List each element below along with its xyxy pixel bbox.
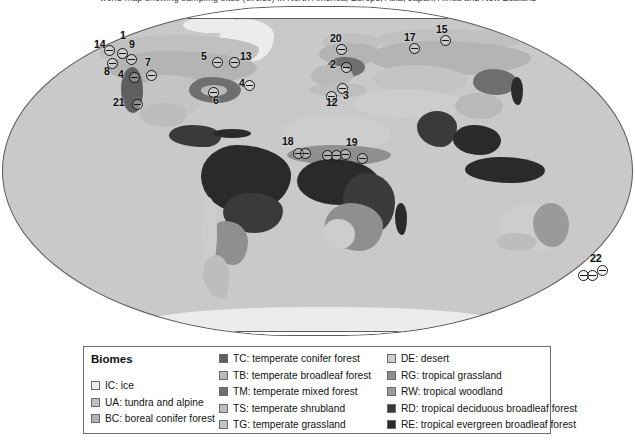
legend-swatch-ua [91,398,100,407]
map-frame-top [128,18,508,19]
site-label-7: 7 [145,57,151,68]
site-marker-19[interactable] [357,153,368,164]
site-label-6: 6 [213,95,219,106]
landmass-japan [511,77,523,105]
legend-swatch-tg [219,420,228,429]
legend-item-ua: UA: tundra and alpine [91,395,219,411]
legend-label-tg: TG: temperate grassland [233,419,346,430]
site-marker-21[interactable] [132,99,143,110]
legend-swatch-de [387,354,396,363]
legend-column-two: TC: temperate conifer forestTB: temperat… [219,347,387,433]
legend-item-tg: TG: temperate grassland [219,417,387,433]
site-marker-15[interactable] [440,35,451,46]
legend-item-tb: TB: temperate broadleaf forest [219,368,387,384]
site-marker-13[interactable] [229,57,240,68]
site-label-4b: 4 [239,78,245,89]
legend-label-rd: RD: tropical deciduous broadleaf forest [401,403,577,414]
site-marker-9[interactable] [126,54,137,65]
legend-item-ic: IC: ice [91,378,219,394]
site-label-17: 17 [404,32,416,43]
map-plate [2,6,633,336]
site-marker-19c[interactable] [340,149,351,160]
legend-item-tc: TC: temperate conifer forest [219,351,387,367]
landmass-madagascar [395,203,407,235]
landmass-southwest-shrubland [139,103,187,127]
landmass-australia-shrubland [497,233,537,251]
landmass-patagonia [203,255,229,299]
site-label-18: 18 [282,136,294,147]
site-label-8: 8 [104,66,110,77]
figure-root: world map showing sampling sites (circle… [0,0,635,440]
site-marker-18b[interactable] [300,148,311,159]
legend-item-tm: TM: temperate mixed forest [219,384,387,400]
site-marker-7[interactable] [146,70,157,81]
legend-item-re: RE: tropical evergreen broadleaf forest [387,417,550,433]
legend-column-one: Biomes IC: iceUA: tundra and alpineBC: b… [84,347,219,433]
site-label-12: 12 [326,97,338,108]
legend-item-bc: BC: boreal conifer forest [91,411,219,427]
legend-swatch-rd [387,404,396,413]
legend-label-de: DE: desert [401,353,449,364]
landmass-kalahari [323,219,355,249]
landmass-southeast-asia-evergreen [453,125,501,155]
legend-swatch-bc [91,414,100,423]
legend-item-rw: RW: tropical woodland [387,384,550,400]
legend-label-tc: TC: temperate conifer forest [233,353,360,364]
legend-swatch-tc [219,354,228,363]
site-label-15: 15 [436,24,448,35]
site-label-1: 1 [120,30,126,41]
site-marker-22[interactable] [597,265,608,276]
landmass-india-deciduous [417,111,457,147]
site-label-19: 19 [346,137,358,148]
site-label-22: 22 [590,253,602,264]
legend-label-ts: TS: temperate shrubland [233,403,345,414]
map-frame-bottom [133,331,505,332]
legend-item-rg: RG: tropical grassland [387,368,550,384]
legend-label-re: RE: tropical evergreen broadleaf forest [401,419,576,430]
legend-label-bc: BC: boreal conifer forest [105,413,215,424]
site-label-13: 13 [240,51,252,62]
site-label-20: 20 [330,33,342,44]
landmass-central-america [169,125,221,147]
site-marker-5[interactable] [212,57,223,68]
legend-swatch-rg [387,371,396,380]
legend-column-three: DE: desertRG: tropical grasslandRW: trop… [387,347,550,433]
landmass-indonesia [465,157,545,183]
legend-swatch-ic [91,381,100,390]
legend-swatch-ts [219,404,228,413]
site-label-4a: 4 [118,69,124,80]
site-marker-4b[interactable] [244,80,255,91]
site-marker-4a[interactable] [129,72,140,83]
site-label-5: 5 [201,51,207,62]
site-label-14: 14 [94,39,106,50]
legend-label-tm: TM: temperate mixed forest [233,386,358,397]
legend-item-rd: RD: tropical deciduous broadleaf forest [387,401,550,417]
site-label-21: 21 [113,97,125,108]
site-marker-20[interactable] [336,44,347,55]
legend-swatch-re [387,420,396,429]
world-map-figure: 141984751364212023121715181922 [0,4,635,340]
legend-item-ts: TS: temperate shrubland [219,401,387,417]
legend-label-tb: TB: temperate broadleaf forest [233,370,371,381]
legend-label-rg: RG: tropical grassland [401,370,502,381]
legend-title: Biomes [91,353,219,365]
legend-swatch-rw [387,387,396,396]
site-marker-2[interactable] [341,62,352,73]
site-label-2: 2 [330,59,336,70]
legend-swatch-tb [219,371,228,380]
legend-label-ic: IC: ice [105,380,134,391]
site-marker-17[interactable] [409,43,420,54]
site-label-9: 9 [129,39,135,50]
landmass-australia-woodland [533,203,569,247]
landmass-caribbean [213,129,251,138]
landmass-arctic-ice [183,17,243,33]
legend-item-de: DE: desert [387,351,550,367]
site-label-3: 3 [343,90,349,101]
map-canvas [3,7,633,336]
legend-label-rw: RW: tropical woodland [401,386,503,397]
legend-swatch-tm [219,387,228,396]
biome-legend: Biomes IC: iceUA: tundra and alpineBC: b… [83,346,551,434]
legend-label-ua: UA: tundra and alpine [105,397,204,408]
figure-caption: world map showing sampling sites (circle… [100,0,536,3]
landmass-china-broadleaf [455,93,503,119]
